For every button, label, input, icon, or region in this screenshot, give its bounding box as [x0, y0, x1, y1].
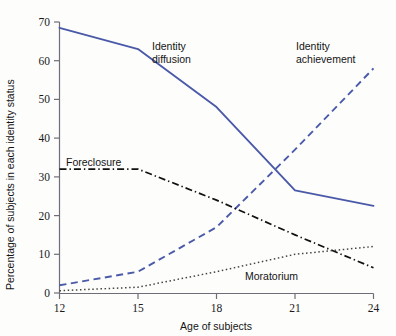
x-ticklabel-18: 18 [211, 302, 223, 314]
series-moratorium [60, 247, 374, 291]
y-axis-ticklabels: 70 60 50 40 30 20 10 0 [39, 16, 51, 299]
x-ticklabel-15: 15 [132, 302, 144, 314]
annotation-moratorium: Moratorium [245, 270, 298, 282]
annotation-diffusion-line1: Identity [152, 40, 187, 52]
series-identity-achievement [60, 68, 374, 285]
y-ticklabel-0: 0 [44, 287, 50, 299]
y-axis-title: Percentage of subjects in each identity … [4, 79, 16, 290]
annotation-achievement-line1: Identity [296, 40, 331, 52]
x-ticklabel-12: 12 [54, 302, 66, 314]
y-ticklabel-40: 40 [39, 132, 51, 144]
annotation-identity-achievement: Identity achievement [296, 40, 356, 65]
annotation-diffusion-line2: diffusion [152, 53, 191, 65]
x-ticklabel-21: 21 [289, 302, 301, 314]
x-axis-ticks [60, 294, 374, 300]
series-foreclosure [60, 169, 374, 268]
x-axis-ticklabels: 12 15 18 21 24 [54, 302, 380, 314]
x-ticklabel-24: 24 [368, 302, 380, 314]
chart-figure: 70 60 50 40 30 20 10 0 12 15 18 21 24 Pe… [0, 0, 396, 336]
x-axis-title: Age of subjects [180, 320, 252, 332]
y-ticklabel-30: 30 [39, 171, 51, 183]
chart-svg: 70 60 50 40 30 20 10 0 12 15 18 21 24 Pe… [0, 0, 396, 336]
y-ticklabel-10: 10 [39, 248, 51, 260]
y-ticklabel-60: 60 [39, 55, 51, 67]
annotation-foreclosure: Foreclosure [66, 156, 122, 168]
y-ticklabel-20: 20 [39, 210, 51, 222]
y-ticklabel-70: 70 [39, 16, 51, 28]
y-axis-ticks [54, 22, 60, 293]
series-annotations: Identity diffusion Identity diffusion Id… [66, 40, 356, 282]
annotation-identity-diffusion: Identity diffusion [152, 40, 191, 65]
annotation-achievement-line2: achievement [296, 53, 356, 65]
y-ticklabel-50: 50 [39, 93, 51, 105]
